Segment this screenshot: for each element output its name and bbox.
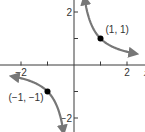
- y-tick-label: 2: [66, 7, 72, 18]
- data-point: [45, 89, 51, 95]
- data-point: [98, 36, 104, 42]
- data-point-label: (−1, −1): [8, 92, 43, 103]
- curve-branch-negative: [13, 77, 63, 132]
- data-point-label: (1, 1): [106, 24, 129, 35]
- x-axis-label: x: [143, 66, 145, 78]
- chart: −222−2 x (1, 1)(−1, −1): [0, 0, 145, 132]
- x-tick-label: 2: [124, 67, 130, 78]
